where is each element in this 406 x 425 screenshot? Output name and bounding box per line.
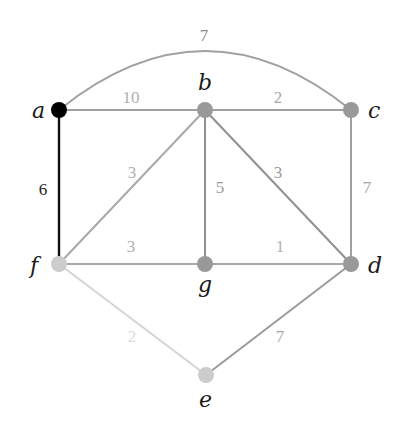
node-label-a: a	[32, 98, 45, 123]
edges-group	[59, 51, 351, 375]
edge-weight-f-g: 3	[127, 237, 136, 256]
node-label-c: c	[368, 98, 380, 123]
edge-weight-a-f: 6	[39, 180, 48, 199]
edge-weight-a-c: 7	[200, 26, 209, 45]
graph-diagram: 7102635373127 abcdefg	[0, 0, 406, 425]
node-b	[197, 102, 213, 118]
node-d	[343, 256, 359, 272]
edge-weight-a-b: 10	[123, 88, 140, 107]
edge-weight-f-e: 2	[128, 327, 137, 346]
node-g	[197, 256, 213, 272]
edge-weight-b-d: 3	[274, 163, 283, 182]
edge-weight-b-g: 5	[216, 178, 225, 197]
edge-weight-g-d: 1	[276, 237, 285, 256]
edge-weight-b-f: 3	[128, 163, 137, 182]
node-label-f: f	[28, 253, 42, 278]
node-label-e: e	[199, 387, 212, 412]
edge-e-d	[206, 264, 351, 375]
edge-weight-b-c: 2	[274, 88, 283, 107]
edge-weight-e-d: 7	[276, 327, 285, 346]
edge-weight-c-d: 7	[363, 178, 372, 197]
node-label-b: b	[198, 70, 212, 95]
node-label-d: d	[368, 253, 382, 278]
node-e	[198, 367, 214, 383]
edge-f-e	[59, 264, 206, 375]
node-f	[51, 256, 67, 272]
node-a	[51, 102, 67, 118]
node-c	[343, 102, 359, 118]
node-label-g: g	[198, 272, 212, 297]
